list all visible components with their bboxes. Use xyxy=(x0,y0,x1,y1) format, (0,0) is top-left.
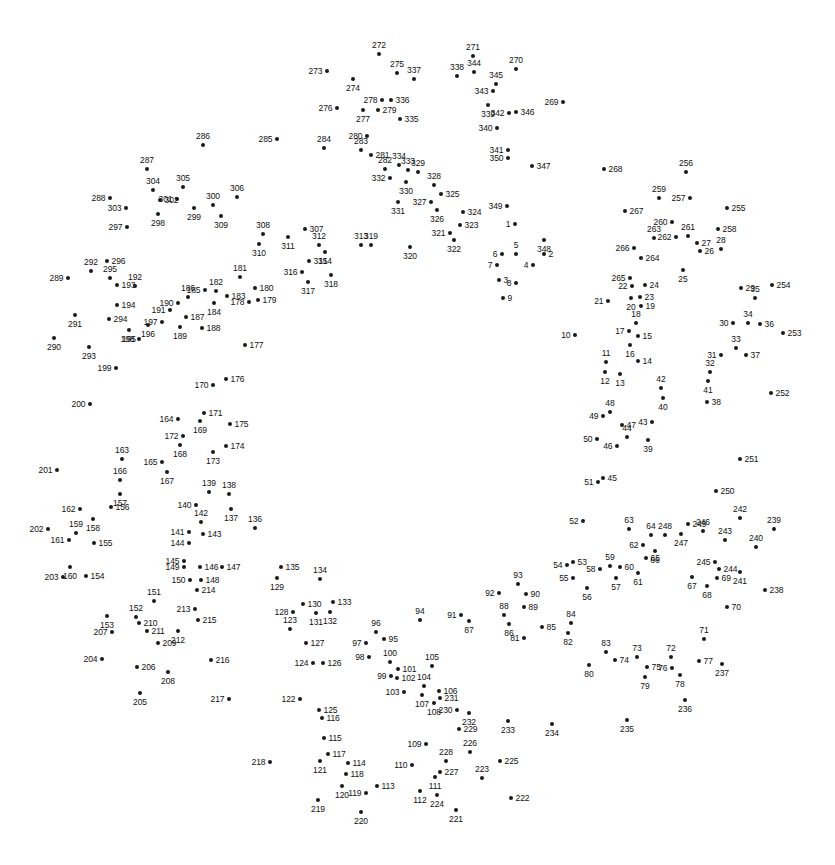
puzzle-dot xyxy=(322,146,326,150)
puzzle-dot xyxy=(279,565,283,569)
puzzle-dot-label: 318 xyxy=(324,280,338,289)
puzzle-dot-label: 85 xyxy=(547,623,556,632)
puzzle-dot xyxy=(209,658,213,662)
puzzle-dot-label: 59 xyxy=(605,553,614,562)
puzzle-dot-label: 196 xyxy=(141,330,155,339)
puzzle-dot xyxy=(359,243,363,247)
puzzle-dot-label: 317 xyxy=(301,287,315,296)
puzzle-dot-label: 79 xyxy=(640,682,649,691)
puzzle-dot xyxy=(115,283,119,287)
puzzle-dot-label: 4 xyxy=(524,261,529,270)
puzzle-dot-label: 56 xyxy=(582,593,591,602)
puzzle-dot-label: 303 xyxy=(108,204,122,213)
puzzle-dot-label: 180 xyxy=(260,284,274,293)
puzzle-dot xyxy=(424,742,428,746)
puzzle-dot xyxy=(615,444,619,448)
puzzle-dot xyxy=(706,379,710,383)
puzzle-dot-label: 163 xyxy=(115,446,129,455)
puzzle-dot-label: 243 xyxy=(718,527,732,536)
puzzle-dot-label: 169 xyxy=(193,426,207,435)
puzzle-dot-label: 223 xyxy=(475,765,489,774)
puzzle-dot-label: 273 xyxy=(309,67,323,76)
puzzle-dot xyxy=(118,492,122,496)
puzzle-dot-label: 244 xyxy=(724,565,738,574)
puzzle-dot-label: 188 xyxy=(207,324,221,333)
puzzle-dot-label: 73 xyxy=(632,644,641,653)
puzzle-dot xyxy=(115,303,119,307)
puzzle-dot xyxy=(468,750,472,754)
puzzle-dot xyxy=(596,480,600,484)
puzzle-dot-label: 282 xyxy=(378,156,392,165)
puzzle-dot xyxy=(715,576,719,580)
puzzle-dot xyxy=(194,503,198,507)
puzzle-dot-label: 224 xyxy=(430,800,444,809)
puzzle-dot xyxy=(317,243,321,247)
puzzle-dot-label: 39 xyxy=(643,445,652,454)
puzzle-dot xyxy=(383,167,387,171)
puzzle-dot xyxy=(335,106,339,110)
puzzle-dot xyxy=(382,637,386,641)
puzzle-dot xyxy=(114,366,118,370)
puzzle-dot xyxy=(369,243,373,247)
puzzle-dot-label: 118 xyxy=(351,770,364,779)
puzzle-dot-label: 13 xyxy=(615,379,624,388)
puzzle-dot-label: 174 xyxy=(231,442,245,451)
puzzle-dot xyxy=(659,386,663,390)
puzzle-dot xyxy=(227,492,231,496)
puzzle-dot xyxy=(300,270,304,274)
puzzle-dot xyxy=(587,663,591,667)
puzzle-dot-label: 290 xyxy=(47,343,61,352)
puzzle-dot-label: 63 xyxy=(624,516,633,525)
puzzle-dot-label: 215 xyxy=(203,616,217,625)
puzzle-dot xyxy=(404,180,408,184)
puzzle-dot-label: 77 xyxy=(704,657,713,666)
puzzle-dot xyxy=(738,457,742,461)
puzzle-dot xyxy=(763,588,767,592)
puzzle-dot-label: 71 xyxy=(699,626,708,635)
puzzle-dot xyxy=(137,621,141,625)
puzzle-dot-label: 166 xyxy=(113,467,127,476)
puzzle-dot-label: 228 xyxy=(439,748,453,757)
puzzle-dot xyxy=(211,383,215,387)
puzzle-dot xyxy=(497,278,501,282)
puzzle-dot-label: 206 xyxy=(142,663,156,672)
puzzle-dot-label: 239 xyxy=(767,516,781,525)
puzzle-dot xyxy=(225,294,229,298)
puzzle-dot xyxy=(506,156,510,160)
puzzle-dot-label: 323 xyxy=(465,221,479,230)
puzzle-dot-label: 6 xyxy=(493,250,498,259)
puzzle-dot xyxy=(124,206,128,210)
puzzle-dot xyxy=(314,611,318,615)
puzzle-dot-label: 152 xyxy=(129,604,143,613)
puzzle-dot xyxy=(505,204,509,208)
puzzle-dot xyxy=(472,70,476,74)
puzzle-dot-label: 237 xyxy=(715,669,729,678)
puzzle-dot-label: 1 xyxy=(506,220,511,229)
puzzle-dot-label: 72 xyxy=(666,644,675,653)
puzzle-dot xyxy=(256,298,260,302)
puzzle-dot xyxy=(186,295,190,299)
puzzle-dot-label: 284 xyxy=(317,135,331,144)
puzzle-dot-label: 219 xyxy=(311,805,325,814)
puzzle-dot-label: 148 xyxy=(206,576,220,585)
puzzle-dot-label: 255 xyxy=(732,204,746,213)
puzzle-dot xyxy=(120,457,124,461)
puzzle-dot-label: 216 xyxy=(216,656,230,665)
puzzle-dot xyxy=(433,775,437,779)
puzzle-dot-label: 227 xyxy=(445,768,459,777)
puzzle-dot-label: 177 xyxy=(250,341,264,350)
puzzle-dot xyxy=(307,259,311,263)
puzzle-dot-label: 142 xyxy=(194,509,208,518)
puzzle-dot-label: 78 xyxy=(675,680,684,689)
puzzle-dot-label: 295 xyxy=(103,265,117,274)
puzzle-dot-label: 134 xyxy=(313,566,327,575)
puzzle-dot-label: 250 xyxy=(721,487,735,496)
puzzle-dot xyxy=(78,507,82,511)
puzzle-dot-label: 232 xyxy=(462,718,476,727)
puzzle-dot-label: 324 xyxy=(468,208,482,217)
puzzle-dot-label: 57 xyxy=(611,583,620,592)
puzzle-dot xyxy=(628,343,632,347)
puzzle-dot-label: 253 xyxy=(788,329,802,338)
puzzle-dot xyxy=(497,591,501,595)
puzzle-dot-label: 234 xyxy=(545,729,559,738)
